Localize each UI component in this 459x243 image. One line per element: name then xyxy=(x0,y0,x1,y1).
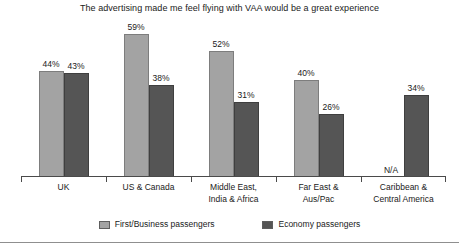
bar-value-label: 59% xyxy=(127,22,144,32)
legend-label: Economy passengers xyxy=(278,219,360,230)
legend-item[interactable]: Economy passengers xyxy=(262,219,360,230)
bar-pair: 40%26% xyxy=(276,20,361,177)
category-label-line: US & Canada xyxy=(106,182,191,194)
category-label-line: UK xyxy=(21,182,106,194)
bar[interactable] xyxy=(64,73,89,177)
bar-pair: 44%43% xyxy=(21,20,106,177)
bar[interactable] xyxy=(39,71,64,177)
legend-item[interactable]: First/Business passengers xyxy=(99,219,215,230)
bar-group: 52%31% xyxy=(191,20,276,177)
bar-value-label: 44% xyxy=(42,59,59,69)
bar-value-label: 38% xyxy=(152,73,169,83)
bar-value-label: 34% xyxy=(407,83,424,93)
bar-pair: N/A34% xyxy=(361,20,446,177)
category-label: Middle East,India & Africa xyxy=(191,182,276,205)
chart-legend: First/Business passengersEconomy passeng… xyxy=(0,219,459,230)
legend-swatch-icon xyxy=(99,221,110,229)
bar-slot: 59% xyxy=(124,20,149,177)
bar-chart: The advertising made me feel flying with… xyxy=(0,0,459,243)
bar-slot: 26% xyxy=(319,20,344,177)
category-label-line: Far East & xyxy=(276,182,361,194)
bar-slot: 52% xyxy=(209,20,234,177)
bar-pair: 59%38% xyxy=(106,20,191,177)
bar-slot: 34% xyxy=(404,20,429,177)
bar-slot: 38% xyxy=(149,20,174,177)
bar[interactable] xyxy=(234,102,259,177)
bar-group: N/A34% xyxy=(361,20,446,177)
bar[interactable] xyxy=(294,80,319,177)
bar-pair: 52%31% xyxy=(191,20,276,177)
bar-value-label: 26% xyxy=(322,102,339,112)
bar-slot: 40% xyxy=(294,20,319,177)
chart-title: The advertising made me feel flying with… xyxy=(0,2,459,14)
bar-value-label: 40% xyxy=(297,68,314,78)
category-label-line: Central America xyxy=(361,194,446,206)
category-label: Caribbean &Central America xyxy=(361,182,446,205)
plot-area: 44%43%59%38%52%31%40%26%N/A34% xyxy=(21,20,446,177)
bar[interactable] xyxy=(209,51,234,177)
category-label-line: India & Africa xyxy=(191,194,276,206)
bar[interactable] xyxy=(404,95,429,177)
bar-groups: 44%43%59%38%52%31%40%26%N/A34% xyxy=(21,20,446,177)
category-label-line: Middle East, xyxy=(191,182,276,194)
bar-value-label: 43% xyxy=(67,61,84,71)
legend-swatch-icon xyxy=(262,221,273,229)
bar-slot: 44% xyxy=(39,20,64,177)
x-axis-category-labels: UKUS & CanadaMiddle East,India & AfricaF… xyxy=(21,182,446,205)
bar[interactable] xyxy=(319,114,344,177)
legend-label: First/Business passengers xyxy=(115,219,215,230)
bar[interactable] xyxy=(149,85,174,177)
bar-slot: N/A xyxy=(379,20,404,177)
category-label: Far East &Aus/Pac xyxy=(276,182,361,205)
category-label: US & Canada xyxy=(106,182,191,205)
category-label-line: Aus/Pac xyxy=(276,194,361,206)
bar-value-label-na: N/A xyxy=(384,165,398,175)
bar-slot: 43% xyxy=(64,20,89,177)
bar-group: 40%26% xyxy=(276,20,361,177)
bar-value-label: 31% xyxy=(237,90,254,100)
bar[interactable] xyxy=(124,34,149,177)
bar-group: 44%43% xyxy=(21,20,106,177)
bar-slot: 31% xyxy=(234,20,259,177)
category-label-line: Caribbean & xyxy=(361,182,446,194)
bar-group: 59%38% xyxy=(106,20,191,177)
category-label: UK xyxy=(21,182,106,205)
bar-value-label: 52% xyxy=(212,39,229,49)
x-axis-line xyxy=(21,176,446,177)
